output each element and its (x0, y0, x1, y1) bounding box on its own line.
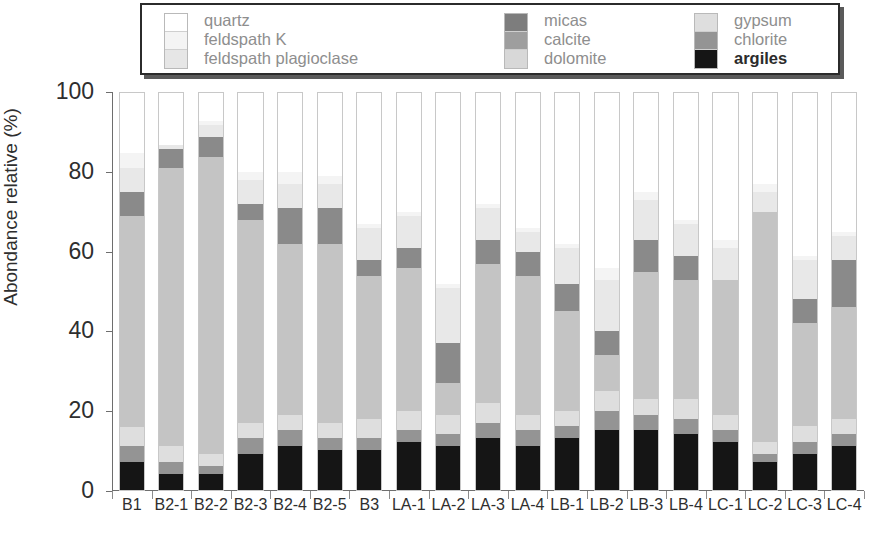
segment-argiles-B2-3 (238, 454, 262, 490)
segment-feldspath-K-B2-3 (238, 172, 262, 180)
x-axis-label-B2-1: B2-1 (152, 496, 192, 514)
segment-gypsum-LB-1 (555, 411, 579, 427)
x-axis-label-LA-3: LA-3 (468, 496, 508, 514)
segment-feldspath-plagioclase-LB-2 (595, 280, 619, 332)
bar-B3 (356, 92, 382, 491)
segment-argiles-LA-2 (436, 446, 460, 490)
bar-LA-3 (475, 92, 501, 491)
segment-argiles-LB-4 (674, 434, 698, 490)
x-axis-label-B2-3: B2-3 (231, 496, 271, 514)
segment-dolomite-LC-3 (793, 323, 817, 426)
legend-label-dolomite: dolomite (544, 49, 606, 68)
bar-LC-3 (792, 92, 818, 491)
dolomite-swatch (505, 50, 527, 68)
stacked-bar-plot: B1B2-1B2-2B2-3B2-4B2-5B3LA-1LA-2LA-3LA-4… (112, 92, 864, 491)
segment-gypsum-B2-4 (278, 415, 302, 431)
segment-quartz-LB-4 (674, 93, 698, 220)
segment-gypsum-LA-2 (436, 415, 460, 435)
segment-quartz-B2-4 (278, 93, 302, 172)
legend-label-argiles: argiles (734, 49, 792, 68)
segment-feldspath-plagioclase-LA-1 (397, 216, 421, 248)
segment-calcite-LA-1 (397, 248, 421, 268)
segment-gypsum-LB-3 (634, 399, 658, 415)
x-axis-label-LA-1: LA-1 (389, 496, 429, 514)
segment-calcite-B3 (357, 260, 381, 276)
segment-calcite-LC-4 (832, 260, 856, 308)
legend-label-chlorite: chlorite (734, 30, 792, 49)
segment-feldspath-plagioclase-B2-2 (199, 125, 223, 137)
segment-gypsum-B1 (120, 427, 144, 447)
bar-LA-1 (396, 92, 422, 491)
segment-dolomite-LC-1 (713, 280, 737, 415)
segment-gypsum-B2-3 (238, 423, 262, 439)
bar-B2-4 (277, 92, 303, 491)
legend-label-calcite: calcite (544, 30, 606, 49)
segment-chlorite-LB-3 (634, 415, 658, 431)
x-axis-label-LB-1: LB-1 (547, 496, 587, 514)
segment-quartz-B2-5 (318, 93, 342, 176)
bar-LC-4 (831, 92, 857, 491)
segment-argiles-LB-2 (595, 430, 619, 490)
segment-chlorite-LC-4 (832, 434, 856, 446)
segment-argiles-B2-2 (199, 474, 223, 490)
segment-chlorite-B1 (120, 446, 144, 462)
segment-calcite-LB-4 (674, 256, 698, 280)
argiles-swatch (695, 50, 717, 68)
segment-feldspath-plagioclase-LC-3 (793, 260, 817, 300)
legend-label-feldspath-plagioclase: feldspath plagioclase (204, 49, 358, 68)
legend-column-1: quartz feldspath K feldspath plagioclase (164, 11, 504, 73)
bar-LA-2 (435, 92, 461, 491)
segment-calcite-LA-2 (436, 343, 460, 383)
x-axis-label-B2-5: B2-5 (310, 496, 350, 514)
segment-dolomite-LA-2 (436, 383, 460, 415)
legend-labels-1: quartz feldspath K feldspath plagioclase (204, 11, 358, 68)
segment-calcite-B2-3 (238, 204, 262, 220)
segment-dolomite-B2-1 (159, 168, 183, 446)
segment-chlorite-LA-2 (436, 434, 460, 446)
segment-argiles-LC-1 (713, 442, 737, 490)
segment-gypsum-B2-1 (159, 446, 183, 462)
feldspath-plagioclase-swatch (165, 50, 187, 68)
segment-argiles-LA-1 (397, 442, 421, 490)
segment-feldspath-K-LC-1 (713, 240, 737, 248)
y-tick-label-0: 0 (20, 477, 94, 504)
segment-feldspath-K-B2-4 (278, 172, 302, 184)
segment-gypsum-LC-3 (793, 426, 817, 442)
segment-argiles-LB-1 (555, 438, 579, 490)
chlorite-swatch (695, 32, 717, 50)
segment-gypsum-LA-1 (397, 411, 421, 431)
segment-feldspath-plagioclase-LA-2 (436, 288, 460, 344)
bar-LA-4 (515, 92, 541, 491)
segment-quartz-LC-2 (753, 93, 777, 184)
segment-chlorite-B2-3 (238, 438, 262, 454)
x-axis-label-LC-2: LC-2 (745, 496, 785, 514)
y-tick-label-100: 100 (20, 78, 94, 105)
segment-chlorite-B2-2 (199, 466, 223, 474)
segment-gypsum-LC-2 (753, 442, 777, 454)
y-tick-label-80: 80 (20, 158, 94, 185)
segment-feldspath-plagioclase-B2-5 (318, 184, 342, 208)
segment-feldspath-plagioclase-LC-4 (832, 236, 856, 260)
segment-feldspath-plagioclase-LA-3 (476, 208, 500, 240)
segment-chlorite-LC-1 (713, 430, 737, 442)
segment-dolomite-LC-4 (832, 307, 856, 418)
bar-LB-2 (594, 92, 620, 491)
segment-dolomite-LA-1 (397, 268, 421, 411)
segment-quartz-LA-4 (516, 93, 540, 228)
segment-dolomite-LB-2 (595, 355, 619, 391)
segment-feldspath-plagioclase-B2-4 (278, 184, 302, 208)
segment-chlorite-B2-4 (278, 430, 302, 446)
x-axis-label-B2-4: B2-4 (270, 496, 310, 514)
segment-feldspath-K-LB-3 (634, 192, 658, 200)
segment-quartz-B2-3 (238, 93, 262, 172)
segment-dolomite-B2-3 (238, 220, 262, 422)
segment-quartz-LB-3 (634, 93, 658, 192)
segment-feldspath-plagioclase-B3 (357, 228, 381, 260)
segment-chlorite-LB-2 (595, 411, 619, 431)
segment-gypsum-LB-2 (595, 391, 619, 411)
segment-quartz-LA-1 (397, 93, 421, 212)
segment-gypsum-LC-1 (713, 415, 737, 431)
legend-swatch-stack-3 (694, 13, 718, 69)
segment-gypsum-LC-4 (832, 419, 856, 435)
micas-swatch (505, 14, 527, 32)
